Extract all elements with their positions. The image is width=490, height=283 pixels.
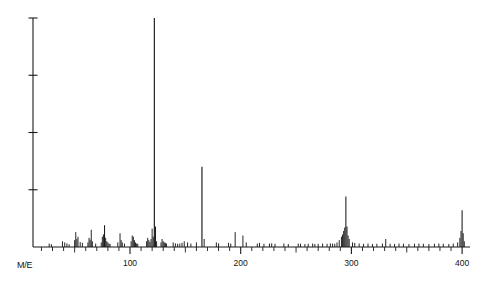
x-axis-caption: M/E [17, 260, 32, 270]
x-tick-label: 100 [123, 258, 137, 268]
y-axis [29, 18, 38, 247]
x-tick-labels: 100200300400 [123, 258, 470, 268]
mass-spectrum-figure: 100200300400 M/E [0, 0, 490, 283]
x-axis [33, 247, 470, 254]
x-tick-label: 400 [455, 258, 469, 268]
x-tick-label: 200 [234, 258, 248, 268]
x-tick-label: 300 [344, 258, 358, 268]
peaks-group [49, 18, 464, 247]
spectrum-plot: 100200300400 M/E [0, 0, 490, 283]
